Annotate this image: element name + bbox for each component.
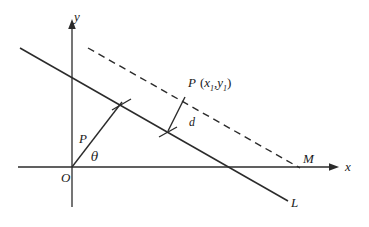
dashed-line-through-P bbox=[88, 48, 300, 168]
normal-foot-P-label: P bbox=[79, 132, 87, 145]
distance-segment-d bbox=[168, 97, 185, 131]
figure-canvas bbox=[0, 0, 369, 227]
y-axis-label: y bbox=[74, 10, 80, 23]
angle-theta-label: θ bbox=[91, 151, 98, 163]
point-P-coordinate-label: P(x1,y1) bbox=[188, 76, 231, 93]
coord-close-paren: ) bbox=[227, 75, 231, 90]
origin-label: O bbox=[61, 171, 70, 184]
point-P-name: P bbox=[188, 75, 196, 90]
point-M-label: M bbox=[303, 152, 314, 165]
perpendicular-tick-at-OP-foot bbox=[112, 99, 131, 110]
x-axis-label: x bbox=[345, 160, 351, 173]
distance-d-label: d bbox=[189, 116, 195, 128]
geometry-figure: y x O θ P d P(x1,y1) M L bbox=[0, 0, 369, 227]
line-L-label: L bbox=[291, 196, 298, 209]
